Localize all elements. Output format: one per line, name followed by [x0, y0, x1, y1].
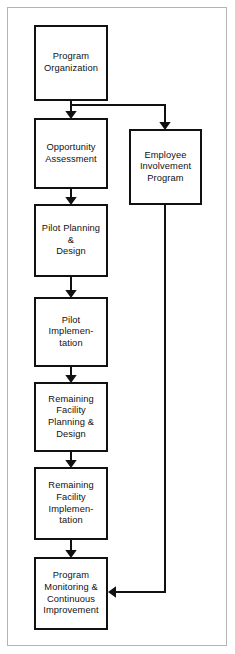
node-employee-involvement-program: Employee Involvement Program [129, 129, 202, 205]
node-program-organization: Program Organization [34, 25, 108, 101]
node-opportunity-assessment: Opportunity Assessment [34, 118, 108, 189]
node-pilot-planning-design: Pilot Planning & Design [34, 204, 108, 277]
node-label-program-monitoring-continuous-improvement: Program Monitoring & Continuous Improvem… [41, 570, 100, 616]
node-remaining-facility-planning-design: Remaining Facility Planning & Design [34, 382, 108, 452]
node-label-pilot-implementation: Pilot Implemen- tation [47, 315, 96, 350]
node-label-pilot-planning-design: Pilot Planning & Design [40, 223, 102, 258]
node-label-employee-involvement-program: Employee Involvement Program [138, 150, 193, 185]
node-remaining-facility-implementation: Remaining Facility Implemen- tation [34, 467, 108, 540]
node-label-opportunity-assessment: Opportunity Assessment [43, 142, 99, 165]
node-label-remaining-facility-planning-design: Remaining Facility Planning & Design [46, 394, 96, 440]
flowchart-figure: Program Organization Opportunity Assessm… [0, 0, 235, 654]
node-label-remaining-facility-implementation: Remaining Facility Implemen- tation [46, 480, 95, 526]
node-program-monitoring-continuous-improvement: Program Monitoring & Continuous Improvem… [34, 557, 108, 630]
connector-employee-to-monitoring [114, 205, 165, 592]
node-pilot-implementation: Pilot Implemen- tation [34, 297, 108, 367]
node-label-program-organization: Program Organization [42, 51, 100, 74]
